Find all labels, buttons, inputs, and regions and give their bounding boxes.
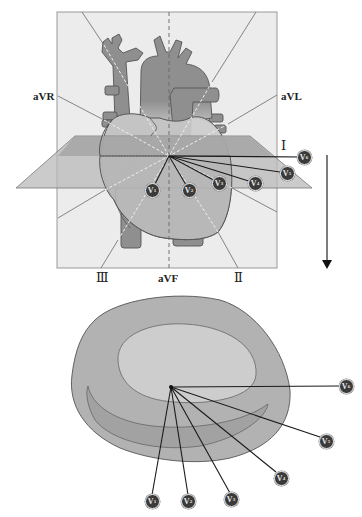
label-avl: aVL xyxy=(281,91,302,102)
electrode-v5-transverse: V5 xyxy=(319,434,334,449)
electrode-v6-frontal: V6 xyxy=(297,150,312,165)
electrode-v6-transverse: V6 xyxy=(339,379,354,394)
electrode-v2-transverse: V2 xyxy=(181,494,196,509)
electrode-number: 3 xyxy=(233,497,236,502)
electrode-number: 2 xyxy=(191,188,194,193)
label-avr: aVR xyxy=(33,91,54,102)
electrode-v3-transverse: V3 xyxy=(224,492,239,507)
electrode-number: 6 xyxy=(348,384,351,389)
label-lead-i: Ⅰ xyxy=(281,139,286,152)
ecg-lead-diagram: aVR aVL Ⅰ Ⅲ aVF Ⅱ V1 V2 V3 V4 V5 V6 V1 V… xyxy=(0,0,362,517)
electrode-number: 1 xyxy=(154,188,157,193)
electrode-v4-transverse: V4 xyxy=(274,471,289,486)
electrode-number: 1 xyxy=(154,499,157,504)
electrode-v5-frontal: V5 xyxy=(280,166,295,181)
electrode-v1-transverse: V1 xyxy=(145,494,160,509)
transverse-view xyxy=(71,296,340,495)
down-arrow xyxy=(322,155,332,269)
label-lead-iii: Ⅲ xyxy=(96,271,109,284)
electrode-v1-frontal: V1 xyxy=(145,183,160,198)
electrode-number: 4 xyxy=(257,181,260,186)
horizontal-plane-top xyxy=(58,136,272,156)
electrode-number: 2 xyxy=(190,499,193,504)
label-avf: aVF xyxy=(158,273,178,284)
diagram-canvas xyxy=(0,0,362,517)
label-lead-ii: Ⅱ xyxy=(234,271,243,284)
electrode-number: 3 xyxy=(221,181,224,186)
electrode-number: 5 xyxy=(328,439,331,444)
frontal-view xyxy=(16,12,312,268)
electrode-number: 4 xyxy=(283,476,286,481)
electrode-number: 5 xyxy=(289,171,292,176)
electrode-v3-frontal: V3 xyxy=(212,176,227,191)
electrode-v4-frontal: V4 xyxy=(248,176,263,191)
electrode-number: 6 xyxy=(306,155,309,160)
electrode-v2-frontal: V2 xyxy=(182,183,197,198)
